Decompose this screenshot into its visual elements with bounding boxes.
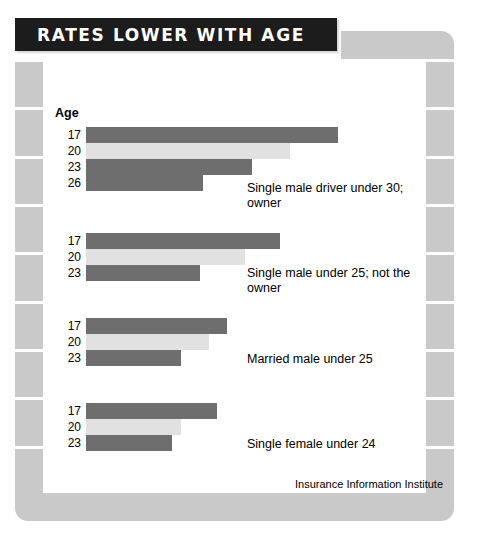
bar [86, 334, 209, 350]
bar [86, 143, 290, 159]
bar-category-label: 17 [55, 403, 81, 419]
bar-chart: Age 17202326Single male driver under 30;… [0, 0, 491, 534]
bar-category-label: 23 [55, 159, 81, 175]
bar-category-label: 23 [55, 350, 81, 366]
bar-category-label: 17 [55, 233, 81, 249]
bar [86, 249, 245, 265]
bar-category-label: 23 [55, 435, 81, 451]
bar [86, 175, 203, 191]
bar-category-label: 20 [55, 334, 81, 350]
bar [86, 233, 280, 249]
bar [86, 127, 338, 143]
group-caption: Single male under 25; not the owner [247, 266, 437, 296]
group-caption: Married male under 25 [247, 352, 437, 367]
bar-category-label: 17 [55, 318, 81, 334]
bar [86, 350, 181, 366]
bar [86, 419, 181, 435]
bar [86, 435, 172, 451]
bar [86, 403, 217, 419]
axis-title-age: Age [55, 106, 79, 120]
bar-category-label: 23 [55, 265, 81, 281]
bar-category-label: 20 [55, 143, 81, 159]
bar [86, 265, 200, 281]
bar [86, 159, 252, 175]
bar-category-label: 20 [55, 249, 81, 265]
bar-category-label: 20 [55, 419, 81, 435]
group-caption: Single female under 24 [247, 437, 437, 452]
group-caption: Single male driver under 30; owner [247, 181, 437, 211]
chart-page: RATES LOWER WITH AGE Age 17202326Single … [0, 0, 491, 534]
bar [86, 318, 227, 334]
source-credit: Insurance Information Institute [295, 478, 443, 490]
bar-category-label: 26 [55, 175, 81, 191]
bar-category-label: 17 [55, 127, 81, 143]
